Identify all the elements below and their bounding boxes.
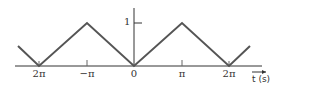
x-tick-label: −π [80, 68, 95, 79]
x-tick-label: 2π [223, 68, 236, 79]
x-tick-label: 0 [131, 68, 137, 79]
x-tick-label: 2π [33, 68, 46, 79]
x-axis-label: t (s) [252, 74, 270, 84]
x-tick-label: π [179, 68, 186, 79]
y-tick-label: 1 [124, 16, 130, 27]
